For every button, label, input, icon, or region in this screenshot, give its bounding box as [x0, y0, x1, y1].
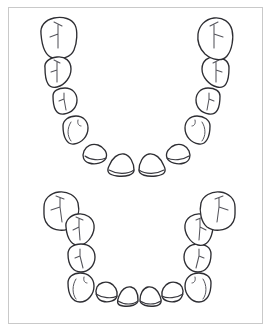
tooth-mandibular-right-second-molar[interactable] — [200, 192, 235, 230]
maxillary-right-quadrant — [166, 18, 232, 164]
tooth-mandibular-right-lateral-incisor[interactable] — [162, 282, 183, 302]
maxillary-arch — [41, 17, 233, 176]
tooth-mandibular-left-canine[interactable] — [68, 273, 94, 302]
tooth-maxillary-right-lateral-incisor[interactable] — [166, 144, 189, 163]
tooth-maxillary-right-second-molar[interactable] — [198, 18, 233, 60]
tooth-maxillary-left-first-molar[interactable] — [45, 57, 71, 87]
dental-arch-figure: Primary dentition dental arches Line dra… — [0, 0, 272, 333]
tooth-mandibular-left-lateral-incisor[interactable] — [96, 282, 117, 302]
tooth-mandibular-central-incisor-right[interactable] — [140, 287, 161, 306]
tooth-mandibular-central-incisor-left[interactable] — [118, 287, 138, 306]
tooth-maxillary-left-lateral-incisor[interactable] — [83, 144, 106, 163]
tooth-maxillary-right-second-premolar[interactable] — [196, 88, 220, 114]
tooth-maxillary-left-second-premolar[interactable] — [53, 88, 77, 114]
tooth-maxillary-left-canine[interactable] — [63, 116, 88, 144]
tooth-maxillary-right-first-molar[interactable] — [202, 57, 229, 87]
mandibular-arch — [44, 192, 235, 306]
dental-arches-illustration — [0, 0, 272, 333]
mandibular-left-quadrant — [44, 192, 117, 302]
mandibular-right-quadrant — [162, 192, 235, 302]
tooth-mandibular-right-second-premolar[interactable] — [184, 244, 211, 272]
tooth-maxillary-right-canine[interactable] — [185, 116, 210, 144]
tooth-maxillary-central-incisor-right[interactable] — [139, 154, 165, 176]
tooth-maxillary-left-second-molar[interactable] — [41, 17, 77, 58]
maxillary-left-quadrant — [41, 17, 107, 163]
tooth-maxillary-central-incisor-left[interactable] — [108, 154, 134, 176]
tooth-mandibular-left-first-molar[interactable] — [66, 214, 94, 245]
mandibular-central-incisors — [118, 287, 162, 306]
maxillary-central-incisors — [108, 154, 165, 176]
tooth-mandibular-left-second-premolar[interactable] — [68, 244, 95, 272]
tooth-mandibular-right-canine[interactable] — [185, 273, 211, 302]
